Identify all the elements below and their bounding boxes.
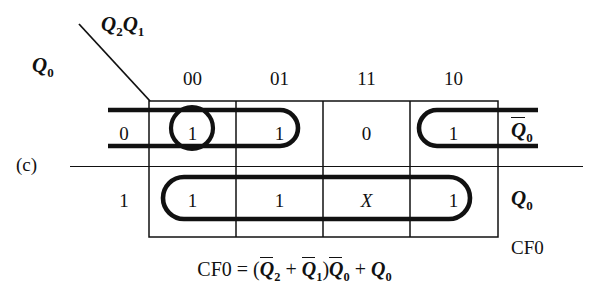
equation-plus-1: + xyxy=(285,258,296,280)
equation-lhs: CF0 xyxy=(197,258,231,280)
equation-term-q1bar: Q1 xyxy=(302,258,323,280)
equation: CF0 = (Q2 + Q1)Q0 + Q0 xyxy=(0,258,589,285)
column-header-10: 10 xyxy=(410,68,497,90)
column-header-01: 01 xyxy=(236,68,323,90)
column-header-11: 11 xyxy=(323,68,410,90)
cell-r0-c00: 1 xyxy=(149,123,236,145)
row-header-1: 1 xyxy=(110,190,138,212)
column-header-00: 00 xyxy=(149,68,236,90)
row-label-qbar0: Q0 xyxy=(511,118,533,146)
cell-r0-c10: 1 xyxy=(410,123,497,145)
cell-r1-c01: 1 xyxy=(236,190,323,212)
output-label-cf0: CF0 xyxy=(511,237,544,259)
equation-open-paren: ( xyxy=(253,258,260,280)
equation-term-q0: Q0 xyxy=(371,258,392,280)
cell-r1-c00: 1 xyxy=(149,190,236,212)
equation-plus-2: + xyxy=(355,258,366,280)
axis-label-rows: Q0 xyxy=(32,55,54,79)
kmap-grid xyxy=(149,101,498,237)
cell-r0-c01: 1 xyxy=(236,123,323,145)
row-label-q0: Q0 xyxy=(511,186,533,214)
equation-term-q2bar: Q2 xyxy=(260,258,281,280)
cell-r0-c11: 0 xyxy=(323,123,410,145)
axis-label-columns: Q2Q1 xyxy=(101,14,144,38)
kmap-canvas xyxy=(0,0,589,296)
cell-r1-c10: 1 xyxy=(410,190,497,212)
cell-r1-c11: X xyxy=(323,190,410,212)
subfigure-label: (c) xyxy=(16,155,37,174)
row-header-0: 0 xyxy=(110,123,138,145)
equation-equals: = xyxy=(237,258,248,280)
kmap-figure: Q2Q1 Q0 (c) 00 01 11 10 0 1 1 1 0 1 1 1 … xyxy=(0,0,589,296)
equation-term-q0bar: Q0 xyxy=(329,258,350,280)
